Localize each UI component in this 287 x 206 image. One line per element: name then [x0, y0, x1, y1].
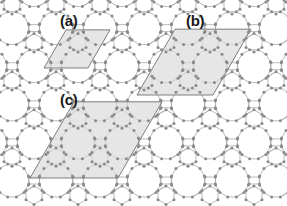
- lattice-vertex: [33, 51, 36, 54]
- lattice-vertex: [50, 10, 53, 13]
- lattice-vertex: [226, 144, 229, 147]
- lattice-vertex: [201, 46, 204, 49]
- lattice-vertex: [40, 122, 43, 125]
- lattice-vertex: [28, 176, 31, 179]
- lattice-vertex: [45, 129, 48, 132]
- lattice-figure: (a) (b) (c): [0, 0, 287, 206]
- lattice-vertex: [157, 46, 160, 49]
- lattice-vertex: [160, 124, 163, 127]
- lattice-vertex: [172, 198, 175, 201]
- lattice-vertex: [218, 15, 221, 18]
- lattice-vertex: [91, 8, 94, 11]
- lattice-vertex: [62, 8, 65, 11]
- lattice-vertex: [3, 160, 6, 163]
- lattice-vertex: [267, 160, 270, 163]
- lattice-vertex: [91, 75, 94, 78]
- lattice-vertex: [113, 198, 116, 201]
- lattice-vertex: [258, 31, 261, 34]
- lattice-vertex: [6, 10, 9, 13]
- lattice-vertex: [55, 89, 58, 92]
- lattice-vertex: [248, 48, 251, 51]
- lattice-vertex: [82, 175, 85, 178]
- lattice-vertex: [169, 48, 172, 51]
- lattice-vertex: [28, 23, 31, 26]
- lattice-vertex: [192, 145, 195, 148]
- lattice-vertex: [262, 15, 265, 18]
- lattice-vertex: [270, 86, 273, 89]
- lattice-vertex: [69, 37, 72, 40]
- lattice-vertex: [64, 1, 67, 4]
- lattice-vertex: [108, 77, 111, 80]
- lattice-vertex: [182, 86, 185, 89]
- lattice-vertex: [204, 81, 207, 84]
- lattice-vertex: [60, 145, 63, 148]
- lattice-vertex: [223, 8, 226, 11]
- lattice-vertex: [248, 81, 251, 84]
- lattice-vertex: [179, 84, 182, 87]
- lattice-vertex: [187, 70, 190, 73]
- lattice-vertex: [86, 191, 89, 194]
- lattice-vertex: [3, 8, 6, 11]
- lattice-vertex: [165, 127, 168, 130]
- lattice-vertex: [147, 86, 150, 89]
- lattice-vertex: [82, 22, 85, 25]
- lattice-vertex: [270, 119, 273, 122]
- lattice-vertex: [116, 124, 119, 127]
- lattice-vertex: [257, 124, 260, 127]
- lattice-vertex: [72, 157, 75, 160]
- lattice-vertex: [209, 185, 212, 188]
- lattice-vertex: [174, 167, 177, 170]
- lattice-vertex: [37, 157, 40, 160]
- lattice-vertex: [209, 127, 212, 130]
- lattice-vertex: [240, 53, 243, 56]
- lattice-vertex: [15, 43, 18, 46]
- lattice-vertex: [33, 32, 36, 35]
- lattice-vertex: [245, 189, 248, 192]
- lattice-vertex: [231, 165, 234, 168]
- lattice-vertex: [116, 176, 119, 179]
- lattice-vertex: [270, 68, 273, 71]
- lattice-vertex: [174, 91, 177, 94]
- lattice-vertex: [99, 12, 102, 15]
- lattice-vertex: [72, 182, 75, 185]
- lattice-vertex: [47, 84, 50, 87]
- lattice-vertex: [138, 195, 141, 198]
- lattice-vertex: [45, 53, 48, 56]
- lattice-vertex: [160, 182, 163, 185]
- lattice-vertex: [226, 163, 229, 166]
- lattice-vertex: [125, 5, 128, 8]
- lattice-vertex: [50, 144, 53, 147]
- lattice-vertex: [99, 165, 102, 168]
- lattice-vertex: [245, 37, 248, 40]
- lattice-vertex: [77, 127, 80, 130]
- lattice-vertex: [138, 68, 141, 71]
- lattice-vertex: [72, 30, 75, 33]
- lattice-vertex: [86, 167, 89, 170]
- lattice-vertex: [155, 167, 158, 170]
- lattice-vertex: [280, 145, 283, 148]
- lattice-vertex: [270, 144, 273, 147]
- lattice-vertex: [235, 163, 238, 166]
- lattice-vertex: [38, 183, 41, 186]
- lattice-vertex: [174, 191, 177, 194]
- lattice-vertex: [214, 22, 217, 25]
- lattice-vertex: [187, 165, 190, 168]
- lattice-vertex: [59, 119, 62, 122]
- lattice-vertex: [155, 91, 158, 94]
- lattice-vertex: [235, 10, 238, 13]
- lattice-vertex: [191, 195, 194, 198]
- lattice-vertex: [170, 183, 173, 186]
- lattice-vertex: [248, 30, 251, 33]
- lattice-vertex: [191, 119, 194, 122]
- lattice-vertex: [213, 124, 216, 127]
- lattice-vertex: [253, 185, 256, 188]
- lattice-vertex: [1, 129, 4, 132]
- lattice-vertex: [126, 175, 129, 178]
- lattice-vertex: [248, 176, 251, 179]
- lattice-vertex: [16, 137, 19, 140]
- lattice-vertex: [221, 129, 224, 132]
- lattice-vertex: [50, 61, 53, 64]
- lattice-vertex: [6, 144, 9, 147]
- lattice-vertex: [116, 106, 119, 109]
- lattice-vertex: [187, 89, 190, 92]
